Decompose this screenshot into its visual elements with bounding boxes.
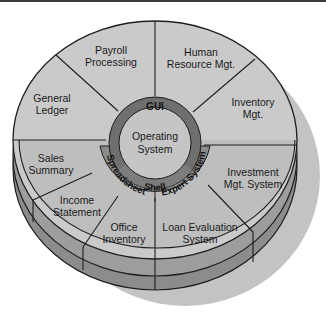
svg-text:Office: Office — [110, 221, 137, 233]
svg-text:Sales: Sales — [38, 152, 64, 164]
svg-text:Processing: Processing — [85, 56, 137, 68]
svg-text:Investment: Investment — [227, 166, 278, 178]
svg-text:Mgt. System: Mgt. System — [224, 178, 283, 190]
svg-text:Mgt.: Mgt. — [243, 108, 263, 120]
segment-general-ledger: General Ledger — [33, 92, 70, 116]
svg-text:Inventory: Inventory — [231, 96, 275, 108]
layered-disk-diagram: Operating System GUI Shell Spreadsheet E… — [0, 0, 326, 318]
svg-text:Inventory: Inventory — [102, 233, 146, 245]
core-label-line2: System — [137, 143, 172, 155]
svg-text:Ledger: Ledger — [36, 104, 69, 116]
gui-label: GUI — [146, 101, 164, 112]
svg-text:Loan Evaluation: Loan Evaluation — [162, 221, 237, 233]
svg-text:Human: Human — [184, 46, 218, 58]
segment-investment: Investment Mgt. System — [224, 166, 283, 190]
svg-text:Income: Income — [60, 194, 95, 206]
svg-text:Summary: Summary — [29, 164, 75, 176]
svg-text:Payroll: Payroll — [95, 44, 127, 56]
svg-text:General: General — [33, 92, 70, 104]
svg-text:Resource Mgt.: Resource Mgt. — [167, 58, 235, 70]
svg-text:System: System — [182, 233, 217, 245]
svg-text:Statement: Statement — [53, 206, 101, 218]
core-label-line1: Operating — [132, 130, 178, 142]
segment-income-statement: Income Statement — [53, 194, 101, 218]
